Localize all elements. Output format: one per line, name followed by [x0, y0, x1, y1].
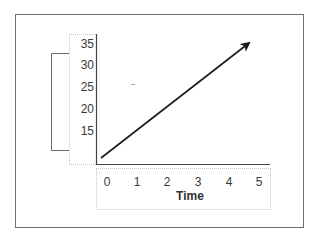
trend-arrow — [101, 43, 249, 158]
left-bracket — [52, 54, 70, 151]
chart-graphics — [0, 0, 319, 241]
